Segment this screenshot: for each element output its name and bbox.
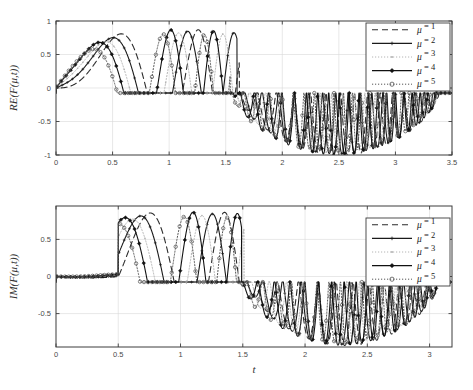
legend-label-mu: μ (416, 234, 422, 244)
data-marker-dot (113, 46, 115, 48)
data-marker-dot (206, 226, 208, 228)
legend-label-mu: μ (416, 261, 422, 271)
x-tick-label: 2.5 (334, 158, 344, 167)
legend[interactable]: μ= 1μ= 2μ= 3μ= 4μ= 5 (366, 21, 450, 91)
x-tick-label: 2 (303, 350, 307, 359)
y-tick-label: -1 (44, 151, 51, 160)
data-marker-dot (108, 41, 110, 43)
x-tick-label: 3.5 (447, 158, 457, 167)
data-marker-dot (160, 92, 162, 94)
legend-label-value: = 4 (424, 257, 436, 267)
y-tick-label: 0.5 (41, 50, 51, 59)
data-marker-dot (284, 294, 286, 296)
data-marker-dot (315, 142, 317, 144)
x-tick-label: 0 (54, 350, 58, 359)
data-marker-dot (180, 281, 182, 283)
data-marker-dot (98, 44, 100, 46)
data-marker-dot (362, 317, 364, 319)
panel-real-part: 00.511.522.533.5-1-0.500.51RE(F(μ,t))μ= … (7, 17, 457, 167)
legend-label-mu: μ (416, 25, 422, 35)
data-marker-dot (310, 131, 312, 133)
data-marker-dot (377, 132, 379, 134)
legend-label-value: = 1 (424, 216, 435, 226)
legend-label-mu: μ (416, 52, 422, 62)
legend[interactable]: μ= 1μ= 2μ= 3μ= 4μ= 5 (366, 216, 450, 286)
data-marker-dot (211, 256, 213, 258)
data-marker-dot (320, 104, 322, 106)
legend-marker-dot (391, 251, 393, 253)
data-marker-dot (186, 281, 188, 283)
data-marker-dot (118, 55, 120, 57)
data-marker-dot (165, 82, 167, 84)
data-marker-dot (175, 35, 177, 37)
data-marker-dot (82, 62, 84, 64)
y-tick-label: -0.5 (38, 309, 51, 318)
legend-label-value: = 2 (424, 35, 435, 45)
data-marker-dot (144, 238, 146, 240)
data-marker-dot (134, 219, 136, 221)
legend-label-mu: μ (416, 39, 422, 49)
legend-label-mu: μ (416, 66, 422, 76)
data-marker-dot (382, 119, 384, 121)
data-marker-dot (237, 272, 239, 274)
x-tick-label: 1 (178, 350, 182, 359)
legend-label-value: = 3 (424, 48, 435, 58)
data-marker-dot (206, 92, 208, 94)
x-tick-label: 0.5 (113, 350, 123, 359)
legend-label-mu: μ (416, 274, 422, 284)
x-tick-label: 0.5 (107, 158, 117, 167)
legend-label-value: = 2 (424, 230, 435, 240)
y-tick-label: 0 (47, 84, 51, 93)
x-tick-label: 3 (427, 350, 431, 359)
data-marker-dot (253, 288, 255, 290)
x-axis-title: t (252, 363, 256, 375)
data-marker-dot (211, 92, 213, 94)
legend-label-mu: μ (416, 220, 422, 230)
data-marker-dot (325, 151, 327, 153)
x-tick-label: 1.5 (238, 350, 248, 359)
data-marker-dot (222, 33, 224, 35)
data-marker-dot (66, 78, 68, 80)
data-marker-dot (201, 215, 203, 217)
data-marker-dot (268, 281, 270, 283)
y-tick-label: 1 (47, 17, 51, 26)
data-marker-dot (279, 97, 281, 99)
data-marker-dot (72, 73, 74, 75)
data-marker-dot (258, 305, 260, 307)
data-marker-dot (227, 49, 229, 51)
y-axis-title: IM(F(μ,t)) (7, 253, 20, 300)
data-marker-dot (77, 68, 79, 70)
data-marker-dot (129, 87, 131, 89)
x-tick-label: 0 (54, 158, 58, 167)
data-marker-dot (341, 336, 343, 338)
data-marker-dot (248, 94, 250, 96)
y-tick-label: 0 (47, 272, 51, 281)
data-marker-dot (191, 253, 193, 255)
data-marker-dot (139, 225, 141, 227)
x-tick-label: 2.5 (362, 350, 372, 359)
x-tick-label: 1.5 (220, 158, 230, 167)
data-marker-dot (217, 53, 219, 55)
x-tick-label: 1 (167, 158, 171, 167)
figure-root: 00.511.522.533.5-1-0.500.51RE(F(μ,t))μ= … (0, 0, 473, 390)
data-marker-dot (232, 281, 234, 283)
data-marker-dot (268, 117, 270, 119)
legend-label-mu: μ (416, 247, 422, 257)
legend-marker-dot (391, 56, 393, 58)
x-tick-label: 2 (280, 158, 284, 167)
legend-label-value: = 3 (424, 243, 435, 253)
data-marker-dot (346, 281, 348, 283)
data-marker-dot (123, 69, 125, 71)
data-marker-dot (274, 310, 276, 312)
panel-imaginary-part: 00.511.522.53-0.500.5IM(F(μ,t))tμ= 1μ= 2… (7, 206, 452, 375)
legend-label-value: = 5 (424, 76, 435, 86)
data-marker-dot (263, 101, 265, 103)
legend-label-mu: μ (416, 79, 422, 89)
data-marker-dot (243, 231, 245, 233)
data-marker-dot (237, 98, 239, 100)
data-marker-dot (149, 257, 151, 259)
x-tick-label: 3 (393, 158, 397, 167)
data-marker-dot (372, 126, 374, 128)
y-tick-label: -0.5 (38, 117, 51, 126)
data-marker-dot (180, 35, 182, 37)
